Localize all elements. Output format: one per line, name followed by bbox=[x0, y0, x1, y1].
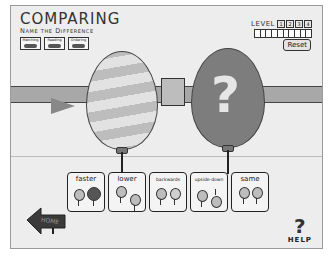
balloon-string bbox=[227, 150, 229, 174]
balloon-face-icon bbox=[74, 189, 85, 201]
mode-tab-label: Ordering bbox=[71, 38, 86, 42]
gate-icon bbox=[161, 78, 185, 106]
striped-balloon bbox=[86, 51, 158, 150]
balloon-face-icon bbox=[252, 187, 263, 199]
mode-tab-label: Matching bbox=[22, 38, 38, 42]
mode-tab-matching[interactable]: Matching bbox=[20, 37, 41, 50]
answer-card-backwards[interactable]: backwards bbox=[149, 172, 187, 212]
help-label: HELP bbox=[288, 236, 312, 244]
balloon-string bbox=[215, 189, 216, 195]
lower-balloon-icon bbox=[130, 194, 141, 206]
card-label: faster bbox=[68, 175, 104, 183]
balloon-string bbox=[160, 199, 161, 205]
level-3-button[interactable]: 3 bbox=[295, 20, 303, 28]
answer-card-upside-down[interactable]: upside-down bbox=[190, 172, 228, 212]
balloon-face-icon bbox=[197, 190, 208, 202]
game-subtitle: Name the Difference bbox=[20, 27, 94, 35]
upside-down-balloon-icon bbox=[211, 196, 222, 208]
book-icon bbox=[48, 44, 61, 48]
game-title: COMPARING bbox=[20, 10, 120, 28]
balloon-face-icon bbox=[156, 188, 167, 200]
level-1-button[interactable]: 1 bbox=[277, 20, 285, 28]
balloon-string bbox=[120, 197, 121, 203]
backwards-balloon-icon bbox=[170, 188, 181, 200]
card-label: lower bbox=[109, 175, 145, 183]
balloon-face-icon bbox=[116, 186, 127, 198]
arrow-sign-icon bbox=[51, 98, 75, 114]
answer-card-faster[interactable]: faster bbox=[67, 172, 105, 212]
balloon-string bbox=[78, 200, 79, 206]
game-frame: COMPARING Name the Difference Matching R… bbox=[10, 5, 323, 249]
home-button[interactable]: HOME bbox=[25, 206, 69, 240]
level-4-button[interactable]: 4 bbox=[304, 20, 312, 28]
card-label: upside-down bbox=[191, 177, 227, 182]
balloon-face-icon bbox=[239, 187, 250, 199]
mode-tabs: Matching Reading Ordering bbox=[20, 37, 89, 50]
balloon-string bbox=[93, 200, 94, 206]
card-label: backwards bbox=[150, 177, 186, 182]
progress-slot bbox=[306, 30, 311, 37]
answer-card-same[interactable]: same bbox=[231, 172, 269, 212]
level-label: LEVEL bbox=[251, 20, 275, 28]
answer-card-lower[interactable]: lower bbox=[108, 172, 146, 212]
spinning-balloon-icon bbox=[87, 187, 101, 201]
balloon-string bbox=[243, 198, 244, 204]
help-button[interactable]: ? HELP bbox=[288, 216, 312, 244]
ground-line bbox=[11, 156, 322, 157]
card-label: same bbox=[232, 175, 268, 183]
balloons-pair-icon bbox=[24, 44, 37, 48]
mode-tab-label: Reading bbox=[47, 38, 61, 42]
mode-tab-reading[interactable]: Reading bbox=[44, 37, 65, 50]
order-icon bbox=[72, 44, 85, 48]
progress-bar bbox=[254, 29, 312, 38]
reset-button[interactable]: Reset bbox=[283, 39, 311, 51]
balloon-string bbox=[121, 152, 123, 174]
question-mark-icon: ? bbox=[211, 66, 240, 124]
balloon-string bbox=[256, 198, 257, 204]
level-selector: LEVEL 1 2 3 4 bbox=[251, 20, 312, 28]
balloon-string bbox=[174, 199, 175, 205]
balloon-string bbox=[134, 205, 135, 211]
mode-tab-ordering[interactable]: Ordering bbox=[68, 37, 89, 50]
balloon-string bbox=[201, 201, 202, 207]
help-question-icon: ? bbox=[288, 216, 312, 236]
level-2-button[interactable]: 2 bbox=[286, 20, 294, 28]
answer-cards: faster lower backwards upside-down bbox=[67, 172, 269, 212]
